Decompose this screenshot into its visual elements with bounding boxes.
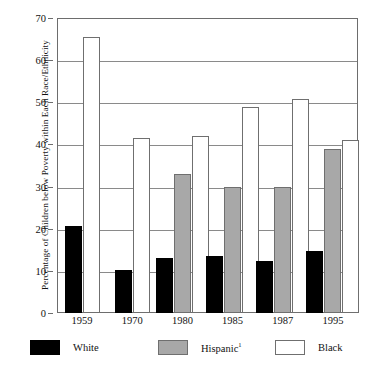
bar-white-1995 — [306, 251, 323, 313]
x-tick-label: 1959 — [72, 315, 93, 326]
x-tick-label: 1970 — [122, 315, 143, 326]
y-tick-mark — [48, 102, 53, 103]
legend-item-black: Black — [275, 340, 343, 355]
legend-label-white: White — [73, 342, 99, 353]
x-tick-label: 1985 — [222, 315, 243, 326]
legend-item-hispanic: Hispanic1 — [158, 340, 242, 355]
y-tick-label: 40 — [36, 139, 47, 150]
legend-item-white: White — [30, 340, 99, 355]
y-tick-mark — [48, 271, 53, 272]
y-tick-mark — [48, 60, 53, 61]
y-tick-label: 30 — [36, 181, 47, 192]
y-tick-label: 50 — [36, 97, 47, 108]
legend-label-hispanic: Hispanic1 — [201, 341, 242, 354]
legend-label-black: Black — [318, 342, 343, 353]
bar-white-1985 — [206, 256, 223, 313]
y-tick-mark — [48, 313, 53, 314]
bar-hispanic-1995 — [324, 149, 341, 313]
y-tick-mark — [48, 144, 53, 145]
bar-group — [107, 18, 157, 313]
bar-black-1995 — [342, 140, 359, 313]
chart-legend: WhiteHispanic1Black — [30, 340, 350, 364]
y-axis-tick-labels: 010203040506070 — [0, 18, 53, 313]
bar-white-1959 — [65, 226, 82, 313]
y-tick-label: 0 — [41, 308, 46, 319]
legend-swatch-hispanic — [158, 340, 188, 355]
bar-group — [157, 18, 207, 313]
x-tick-label: 1987 — [272, 315, 293, 326]
y-tick-label: 60 — [36, 55, 47, 66]
bar-hispanic-1980 — [174, 174, 191, 313]
bar-white-1970 — [115, 270, 132, 313]
legend-footnote-marker: 1 — [238, 341, 241, 348]
bar-hispanic-1985 — [224, 187, 241, 313]
bar-black-1970 — [133, 138, 150, 313]
bar-black-1959 — [83, 37, 100, 313]
bar-group — [308, 18, 358, 313]
legend-swatch-white — [30, 340, 60, 355]
bars-layer — [57, 18, 358, 313]
bar-group — [57, 18, 107, 313]
bar-hispanic-1987 — [274, 187, 291, 313]
y-tick-mark — [48, 229, 53, 230]
bar-white-1980 — [156, 258, 173, 313]
x-axis-tick-labels: 195919701980198519871995 — [57, 315, 358, 333]
y-tick-mark — [48, 187, 53, 188]
x-tick-label: 1995 — [322, 315, 343, 326]
y-tick-label: 70 — [36, 13, 47, 24]
y-tick-label: 20 — [36, 223, 47, 234]
bar-white-1987 — [256, 261, 273, 313]
bar-group — [258, 18, 308, 313]
poverty-bar-chart: Percentage of Children below Poverty wit… — [0, 0, 372, 374]
legend-swatch-black — [275, 340, 305, 355]
y-tick-label: 10 — [36, 265, 47, 276]
y-tick-mark — [48, 18, 53, 19]
bar-group — [208, 18, 258, 313]
x-tick-label: 1980 — [172, 315, 193, 326]
